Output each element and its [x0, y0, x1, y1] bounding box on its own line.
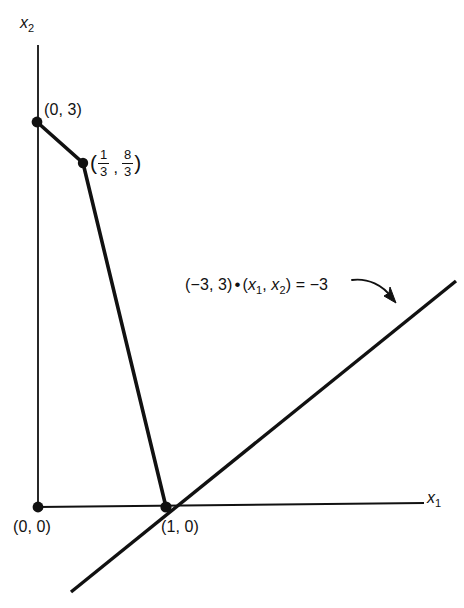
constraint-equation-label: (−3, 3)•(x1, x2) = −3: [185, 275, 328, 296]
y-axis-label: x2: [20, 14, 34, 34]
feasible-boundary-polyline: [37, 122, 166, 507]
vertex-label-fraction-second: 8 3: [122, 148, 133, 178]
eq-rhs: −3: [310, 276, 328, 293]
point-label-1-0: (1, 0): [161, 518, 199, 536]
vertex-label-comma: ,: [113, 159, 118, 177]
fraction-denominator: 3: [98, 163, 109, 179]
eq-var-comma: ,: [262, 276, 267, 293]
eq-var-x2: x2: [271, 276, 285, 293]
eq-equals: =: [296, 276, 305, 293]
constraint-line: [71, 281, 456, 592]
vertex-label-close-paren: ): [134, 152, 141, 173]
eq-dot-operator: •: [232, 275, 242, 294]
y-axis-label-subscript: 2: [28, 22, 34, 34]
point-label-0-3: (0, 3): [44, 101, 82, 119]
x-axis-label-text: x: [427, 489, 435, 506]
x-axis-label-subscript: 1: [435, 497, 441, 509]
vertex-label-fraction-first: 1 3: [98, 148, 109, 178]
point-marker-0-3: [32, 117, 43, 128]
vertex-label-open-paren: (: [90, 152, 97, 173]
x1-axis-line: [38, 503, 424, 507]
point-marker-1-0: [160, 501, 171, 512]
point-marker-one-third-eight-thirds: [78, 158, 88, 168]
eq-var-x1-base: x: [248, 276, 256, 293]
fraction-numerator: 8: [122, 148, 133, 163]
point-marker-origin: [33, 502, 44, 513]
math-figure: [0, 0, 464, 608]
eq-vector: −3, 3: [190, 276, 227, 293]
y-axis-label-text: x: [20, 14, 28, 31]
x-axis-label: x1: [427, 489, 441, 509]
fraction-denominator: 3: [122, 163, 133, 179]
point-label-origin: (0, 0): [13, 518, 51, 536]
annotation-arrowhead-icon: [384, 287, 396, 303]
eq-var-close-paren: ): [286, 276, 291, 293]
fraction-numerator: 1: [98, 148, 109, 163]
eq-var-x1: x1: [248, 276, 262, 293]
point-label-one-third-eight-thirds: ( 1 3 , 8 3 ): [90, 148, 141, 178]
